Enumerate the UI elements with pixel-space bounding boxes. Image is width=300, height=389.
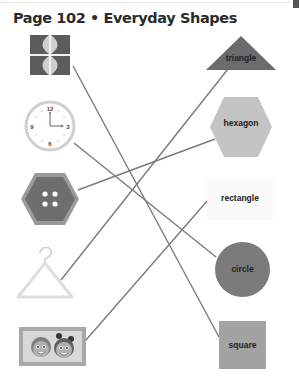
button-icon[interactable] (20, 172, 80, 226)
clock-number-12: 12 (47, 106, 54, 112)
triangle-shape[interactable]: triangle (206, 36, 276, 70)
hexagon-label: hexagon (210, 118, 272, 128)
circle-shape[interactable]: circle (215, 242, 270, 297)
line-hanger-to-triangle[interactable] (61, 69, 228, 280)
window-icon[interactable] (30, 35, 70, 75)
square-shape[interactable]: square (219, 321, 266, 369)
triangle-label: triangle (206, 53, 276, 63)
clock-icon[interactable]: 12 3 6 9 (24, 100, 76, 152)
rectangle-shape[interactable]: rectangle (207, 178, 273, 220)
square-label: square (219, 340, 266, 350)
line-frame-to-rectangle[interactable] (86, 200, 208, 340)
hanger-icon[interactable] (15, 247, 75, 301)
rectangle-label: rectangle (207, 193, 273, 203)
picture-frame-icon[interactable] (19, 327, 86, 366)
line-button-to-hexagon[interactable] (78, 139, 215, 190)
line-clock-to-circle[interactable] (74, 143, 216, 257)
worksheet-page: Page 102 • Everyday Shapes (0, 0, 300, 389)
circle-label: circle (215, 264, 270, 274)
hexagon-shape[interactable]: hexagon (210, 97, 272, 157)
